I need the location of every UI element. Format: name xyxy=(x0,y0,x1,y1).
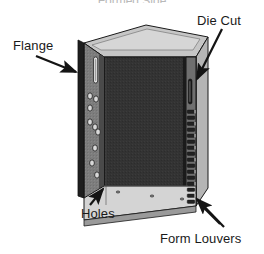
formed-side-diagram: Formed Side xyxy=(0,0,264,254)
flange-arrow xyxy=(36,56,76,72)
callout-label-flange: Flange xyxy=(13,38,53,53)
callout-label-form-louvers: Form Louvers xyxy=(160,231,241,246)
left-outer-edge xyxy=(78,40,84,198)
callout-label-die-cut: Die Cut xyxy=(197,13,241,28)
left-flange-slot xyxy=(94,57,98,83)
right-flange-edge xyxy=(183,57,186,206)
right-flange-die-cut xyxy=(188,79,192,104)
front-panel xyxy=(104,57,196,206)
form-louvers-leader xyxy=(204,208,220,224)
callout-label-holes: Holes xyxy=(81,206,115,221)
